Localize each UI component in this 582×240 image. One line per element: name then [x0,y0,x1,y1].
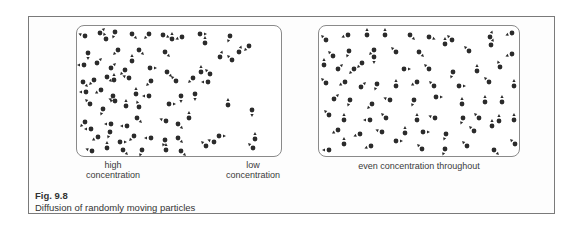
particle [135,116,142,123]
particle [408,33,415,40]
particle [107,130,112,139]
label-low-concentration: low concentration [218,160,288,180]
particle [339,80,347,86]
particle [227,34,232,43]
particle [148,66,157,71]
particle [381,113,388,120]
particle [464,46,471,53]
particle [443,132,448,141]
particle [505,52,514,57]
particle [159,118,168,123]
particle [357,61,364,68]
particles-left [77,26,283,158]
particle [402,67,411,72]
particle [474,113,481,120]
particle [187,111,192,120]
particle [129,134,136,141]
particle [244,44,251,51]
particle [95,88,103,94]
particle [328,51,335,58]
particle [201,141,208,148]
particle [188,76,195,83]
particle [346,49,351,58]
particle [176,122,183,129]
particle [250,108,255,117]
particle [108,98,117,103]
particle [324,110,331,117]
label-high-line1: high [78,160,148,170]
particle [179,94,184,103]
particle [394,139,403,144]
particle [332,94,339,101]
particle [383,97,392,102]
particle [336,64,343,71]
particle [469,126,476,133]
particles-right [319,26,521,158]
particle [497,114,502,123]
particle [497,60,502,69]
particle [78,33,87,38]
particle [372,55,377,64]
particle [105,141,110,150]
particle [84,127,93,132]
particle [120,68,127,75]
particle [80,120,87,127]
particle [322,58,327,67]
particle [374,82,379,91]
particle [429,81,436,88]
particle [342,113,347,122]
particle [421,130,430,135]
particle [428,115,437,120]
particle [391,47,398,54]
particle [226,98,231,107]
particle [121,148,128,155]
particle [198,32,207,37]
label-high-line2: concentration [78,170,148,180]
particle [227,55,234,62]
label-low-line1: low [218,160,288,170]
particle [120,124,129,129]
particle [460,116,465,125]
label-high-concentration: high concentration [78,160,148,180]
figure-caption: Diffusion of randomly moving particles [35,202,195,213]
label-even-concentration: even concentration throughout [318,161,520,171]
particle [512,79,517,88]
particle [205,69,212,76]
particle [483,95,488,104]
particle [104,122,113,127]
particle [139,148,144,157]
particle [100,107,105,116]
particle [112,30,117,39]
particle [403,126,408,135]
particle [193,92,198,101]
particle [411,98,416,107]
particle [113,48,120,55]
particle [105,75,112,82]
particle [349,67,356,74]
particle [79,90,88,95]
particle [321,78,328,85]
particle [500,95,505,104]
particle [163,50,170,57]
particle [201,80,210,85]
particle [92,135,100,141]
particle [85,148,94,153]
particle [130,32,137,39]
particle [118,140,127,145]
particle [253,132,258,141]
figure-number: Fig. 9.8 [35,190,68,201]
particle [505,31,514,36]
particle [171,76,178,83]
particle [199,65,204,74]
particle [490,119,495,128]
particle [375,129,384,134]
particle [109,63,116,70]
particle [424,64,431,71]
particle [510,139,517,146]
particle [175,35,184,40]
particle [144,32,151,39]
particle [342,137,347,146]
particle [447,35,454,42]
particle [443,37,448,46]
label-low-line2: concentration [218,170,288,180]
